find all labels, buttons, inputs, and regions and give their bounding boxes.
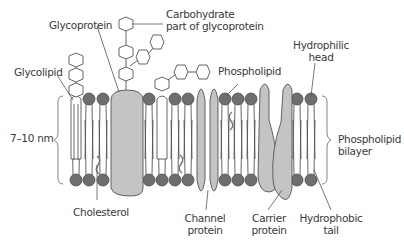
label-hydrophilic-head: Hydrophilic head (291, 39, 351, 63)
label-carbohydrate-line1: Carbohydrate (166, 8, 264, 20)
label-carrier-line1: Carrier (244, 212, 294, 224)
label-glycolipid: Glycolipid (14, 66, 63, 78)
label-phospholipid: Phospholipid (218, 65, 281, 77)
label-thickness: 7–10 nm (10, 132, 53, 144)
label-carbohydrate-line2: part of glycoprotein (166, 20, 264, 32)
label-carrier-protein: Carrier protein (244, 212, 294, 236)
label-carrier-line2: protein (244, 224, 294, 236)
label-bilayer-line1: Phospholipid (338, 133, 401, 145)
label-hydrophobic-line2: tail (296, 224, 366, 236)
label-hydrophobic-tail: Hydrophobic tail (296, 212, 366, 236)
label-hydrophilic-line1: Hydrophilic (291, 39, 351, 51)
label-bilayer-line2: bilayer (338, 145, 401, 157)
carrier-protein-icon (258, 84, 292, 200)
label-hydrophilic-line2: head (291, 51, 351, 63)
glycoprotein-icon (111, 17, 164, 196)
label-channel-line2: protein (180, 224, 230, 236)
thickness-brace (54, 96, 63, 184)
label-phospholipid-bilayer: Phospholipid bilayer (338, 133, 401, 157)
bilayer-brace (322, 96, 331, 184)
label-glycoprotein: Glycoprotein (49, 19, 112, 31)
label-channel-protein: Channel protein (180, 212, 230, 236)
label-channel-line1: Channel (180, 212, 230, 224)
channel-protein-icon (197, 89, 218, 191)
label-hydrophobic-line1: Hydrophobic (296, 212, 366, 224)
glycolipid-icon (69, 53, 83, 160)
label-carbohydrate: Carbohydrate part of glycoprotein (166, 8, 264, 32)
label-cholesterol: Cholesterol (73, 206, 129, 218)
membrane-diagram (0, 0, 404, 244)
